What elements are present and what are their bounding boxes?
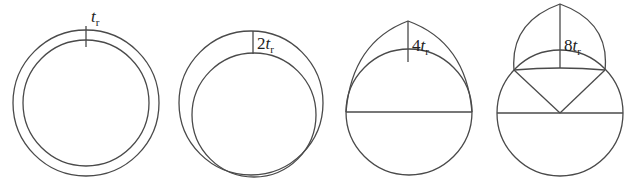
panel-stage-4: 8tr [497,4,623,176]
v-right-line [560,70,605,113]
panel-stage-1: tr [13,7,159,176]
inner-circle [23,40,149,166]
inner-circle [192,53,316,177]
thickness-label: 8tr [564,36,581,57]
v-left-line [514,70,560,113]
diagram-canvas: tr 2tr 4tr 8tr [0,0,637,187]
thickness-label: 2tr [257,34,274,55]
panel-stage-2: 2tr [179,31,323,177]
thickness-label: 4tr [412,36,429,57]
panel-stage-3: 4tr [346,21,472,175]
outer-circle [13,30,159,176]
chord-line [514,68,605,70]
thickness-label: tr [91,7,100,28]
